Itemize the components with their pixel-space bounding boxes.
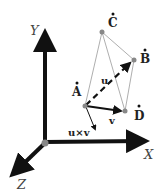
z-axis-label: Z [16,177,27,192]
x-axis-label: X [143,147,154,162]
svg-text:D: D [134,109,144,123]
tetrahedron [85,32,134,111]
point-A: A [71,82,82,100]
point-B: B [140,49,150,67]
origin-point [42,140,49,147]
vector-u-label: u [101,75,108,86]
svg-text:C: C [108,16,118,30]
point-C: C [108,13,118,31]
cross-product-diagram: A B C D u v u×v Y X Z [0,0,163,195]
vector-cross [86,107,95,129]
vector-v [86,106,121,111]
vector-cross-label: u×v [68,127,91,138]
svg-text:A: A [71,85,82,99]
x-axis [45,141,142,142]
z-axis [15,143,45,172]
point-D: D [134,105,144,124]
vector-v-label: v [108,115,116,126]
vertices [83,30,137,114]
svg-text:B: B [140,52,150,66]
y-axis-label: Y [30,23,40,38]
